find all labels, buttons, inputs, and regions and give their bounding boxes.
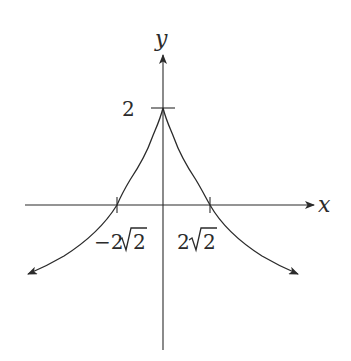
left-root-coef: −2 (94, 230, 123, 254)
left-root-label: −2 2 (94, 228, 147, 254)
right-root-coef: 2 (177, 230, 190, 254)
right-root-radicand: 2 (203, 230, 216, 254)
function-graph: y x 2 −2 2 2 2 (0, 0, 351, 361)
left-root-radicand: 2 (133, 230, 146, 254)
y-tick-label-2: 2 (122, 97, 135, 121)
x-axis-label: x (318, 192, 331, 217)
y-axis-label: y (154, 26, 168, 51)
right-root-label: 2 2 (177, 228, 217, 254)
